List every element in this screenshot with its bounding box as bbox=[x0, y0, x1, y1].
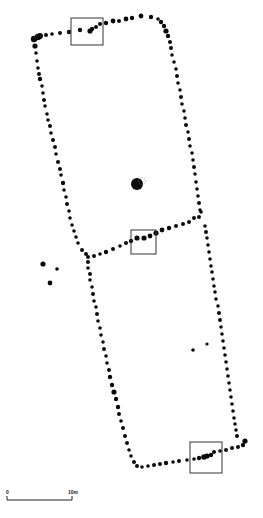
posthole bbox=[42, 98, 46, 102]
posthole bbox=[40, 84, 44, 88]
posthole bbox=[179, 95, 183, 99]
posthole bbox=[219, 325, 223, 329]
posthole bbox=[209, 453, 213, 457]
posthole bbox=[111, 19, 116, 24]
posthole bbox=[223, 353, 227, 357]
posthole bbox=[182, 109, 186, 113]
posthole bbox=[234, 428, 238, 432]
posthole bbox=[90, 285, 94, 289]
posthole bbox=[205, 236, 209, 240]
posthole bbox=[118, 244, 122, 248]
posthole bbox=[152, 463, 156, 467]
posthole bbox=[146, 464, 150, 468]
posthole bbox=[148, 234, 153, 239]
posthole bbox=[216, 304, 220, 308]
posthole bbox=[212, 284, 216, 288]
posthole bbox=[211, 277, 215, 281]
posthole bbox=[232, 416, 236, 420]
posthole bbox=[187, 220, 191, 224]
posthole bbox=[86, 260, 90, 264]
posthole bbox=[181, 222, 185, 226]
posthole bbox=[40, 261, 45, 266]
box-north-wall bbox=[71, 18, 103, 45]
posthole bbox=[209, 264, 213, 268]
posthole bbox=[65, 202, 69, 206]
posthole bbox=[177, 459, 181, 463]
posthole bbox=[194, 180, 198, 184]
posthole bbox=[204, 230, 208, 234]
posthole bbox=[172, 60, 176, 64]
posthole bbox=[195, 187, 199, 191]
posthole bbox=[186, 130, 190, 134]
posthole bbox=[166, 34, 170, 38]
posthole bbox=[236, 445, 240, 449]
posthole bbox=[124, 17, 129, 22]
posthole bbox=[51, 138, 55, 142]
posthole bbox=[104, 354, 108, 358]
posthole bbox=[134, 235, 139, 240]
posthole bbox=[130, 16, 134, 20]
posthole bbox=[92, 254, 96, 258]
posthole bbox=[123, 434, 127, 438]
posthole bbox=[45, 112, 49, 116]
posthole bbox=[68, 216, 72, 220]
posthole bbox=[140, 465, 144, 469]
posthole bbox=[218, 318, 222, 322]
posthole bbox=[104, 250, 108, 254]
posthole bbox=[105, 361, 109, 365]
posthole bbox=[34, 51, 38, 55]
posthole bbox=[169, 46, 173, 50]
posthole bbox=[174, 67, 178, 71]
posthole bbox=[86, 255, 90, 259]
posthole bbox=[226, 374, 230, 378]
posthole bbox=[86, 266, 90, 270]
posthole bbox=[187, 137, 191, 141]
posthole bbox=[49, 131, 53, 135]
posthole bbox=[102, 347, 106, 351]
posthole bbox=[58, 167, 62, 171]
posthole bbox=[119, 419, 123, 423]
posthole bbox=[208, 257, 212, 261]
posthole bbox=[176, 81, 180, 85]
posthole bbox=[191, 348, 195, 352]
posthole bbox=[196, 194, 200, 198]
posthole bbox=[180, 102, 184, 106]
posthole bbox=[185, 458, 189, 462]
posthole bbox=[231, 409, 235, 413]
site-plan: 0 10m bbox=[0, 0, 263, 518]
posthole bbox=[230, 446, 234, 450]
posthole bbox=[62, 188, 66, 192]
posthole bbox=[230, 402, 234, 406]
posthole bbox=[168, 40, 172, 44]
posthole bbox=[116, 405, 120, 409]
posthole bbox=[139, 14, 144, 19]
posthole bbox=[135, 464, 139, 468]
posthole bbox=[94, 25, 98, 29]
posthole bbox=[149, 15, 153, 19]
posthole bbox=[235, 434, 239, 438]
posthole bbox=[192, 165, 196, 169]
posthole bbox=[174, 224, 178, 228]
posthole bbox=[184, 123, 188, 127]
posthole bbox=[90, 27, 94, 31]
posthole-group bbox=[31, 14, 248, 469]
posthole bbox=[192, 216, 196, 220]
posthole bbox=[32, 43, 37, 48]
posthole bbox=[159, 20, 163, 24]
posthole bbox=[55, 267, 59, 271]
posthole bbox=[193, 172, 197, 176]
posthole bbox=[108, 375, 112, 379]
central-hearth-feature bbox=[131, 178, 146, 191]
posthole bbox=[104, 21, 108, 25]
posthole bbox=[127, 448, 131, 452]
posthole bbox=[213, 290, 217, 294]
posthole bbox=[225, 367, 229, 371]
posthole bbox=[37, 33, 43, 39]
posthole bbox=[178, 88, 182, 92]
posthole bbox=[170, 53, 174, 57]
scale-bar: 0 10m bbox=[6, 489, 79, 500]
posthole bbox=[59, 173, 63, 177]
posthole bbox=[233, 422, 237, 426]
posthole bbox=[53, 145, 57, 149]
posthole bbox=[222, 346, 226, 350]
